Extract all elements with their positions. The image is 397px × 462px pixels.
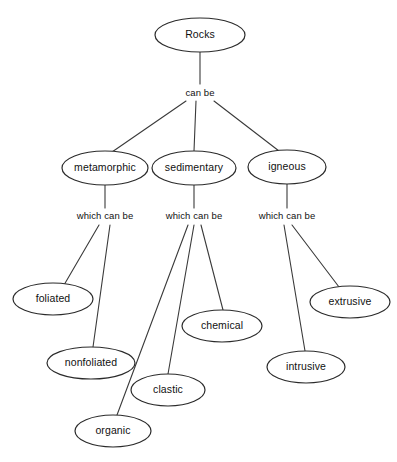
node-foliated[interactable]: foliated: [13, 283, 93, 315]
node-intrusive[interactable]: intrusive: [267, 351, 345, 383]
node-nonfoliated[interactable]: nonfoliated: [47, 347, 135, 379]
node-label-extrusive: extrusive: [329, 295, 372, 307]
node-chemical[interactable]: chemical: [182, 310, 262, 342]
node-sedimentary[interactable]: sedimentary: [152, 151, 236, 185]
node-extrusive[interactable]: extrusive: [310, 286, 390, 318]
node-label-sedimentary: sedimentary: [165, 161, 224, 173]
node-metamorphic[interactable]: metamorphic: [62, 151, 148, 185]
edge-label-which-can-be-sed: which can be: [165, 210, 223, 221]
node-label-igneous: igneous: [268, 160, 305, 172]
edge-label-which-can-be-ign: which can be: [258, 210, 316, 221]
node-label-metamorphic: metamorphic: [74, 161, 136, 173]
edge-ign-to-extrusive: [292, 225, 339, 287]
edge-canbe-to-igneous: [214, 101, 279, 151]
edge-canbe-to-sedimentary: [194, 101, 196, 151]
edge-ign-to-intrusive: [284, 225, 305, 351]
nodes-layer: Rocksmetamorphicsedimentaryigneousfoliat…: [13, 18, 390, 447]
node-clastic[interactable]: clastic: [131, 374, 205, 406]
node-label-intrusive: intrusive: [286, 360, 326, 372]
edge-label-which-can-be-meta: which can be: [76, 210, 134, 221]
edge-canbe-to-metamorphic: [112, 101, 186, 152]
node-label-nonfoliated: nonfoliated: [65, 356, 118, 368]
node-label-foliated: foliated: [36, 292, 71, 304]
node-label-organic: organic: [95, 424, 130, 436]
node-rocks[interactable]: Rocks: [155, 18, 245, 52]
diagram-canvas: Rocksmetamorphicsedimentaryigneousfoliat…: [0, 0, 397, 462]
edge-sed-to-chemical: [201, 225, 223, 310]
edge-meta-to-foliated: [64, 225, 99, 285]
node-label-clastic: clastic: [153, 383, 183, 395]
edge-label-can-be: can be: [185, 87, 214, 98]
concept-map-diagram: Rocksmetamorphicsedimentaryigneousfoliat…: [0, 0, 397, 462]
node-label-chemical: chemical: [201, 319, 243, 331]
node-igneous[interactable]: igneous: [248, 150, 326, 184]
node-label-rocks: Rocks: [185, 28, 215, 40]
edge-sed-to-clastic: [168, 225, 194, 374]
node-organic[interactable]: organic: [75, 415, 151, 447]
edge-meta-to-nonfoliated: [93, 225, 110, 347]
